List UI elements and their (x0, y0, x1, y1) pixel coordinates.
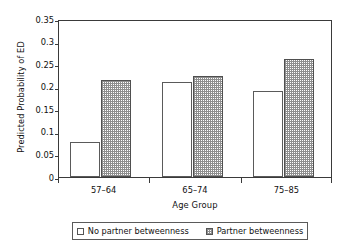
x-axis-tick-mark (241, 178, 242, 183)
legend-entry: Partner betweenness (206, 227, 304, 236)
x-axis-tick-mark (331, 178, 332, 183)
y-axis-tick-label: 0.1 (20, 128, 54, 136)
y-axis-tick-mark (55, 89, 59, 90)
y-axis-tick-mark (55, 66, 59, 67)
x-axis-tick-label: 65–74 (160, 185, 230, 195)
bar-chart-figure: Predicted Probability of ED 00.050.10.15… (0, 0, 342, 252)
y-axis-tick-label: 0.2 (20, 83, 54, 91)
bar-no-partner-betweenness (70, 142, 100, 177)
y-axis-tick-label: 0.25 (20, 61, 54, 69)
x-axis-tick-labels: 57–6465–7475–85 (58, 185, 332, 197)
x-axis-title: Age Group (58, 200, 332, 210)
y-axis-tick-mark (55, 111, 59, 112)
x-axis-tick-label: 57–64 (69, 185, 139, 195)
bar-partner-betweenness (193, 76, 223, 177)
y-axis-tick-labels: 00.050.10.150.20.250.30.35 (16, 0, 54, 252)
x-axis-tick-mark (149, 178, 150, 183)
x-axis-tick-label: 75–85 (251, 185, 321, 195)
y-axis-tick-label: 0 (20, 174, 54, 182)
open-square-icon (77, 228, 84, 235)
bar-no-partner-betweenness (162, 82, 192, 177)
bar-partner-betweenness (101, 80, 131, 177)
chart-legend: No partner betweennessPartner betweennes… (72, 222, 308, 240)
y-axis-tick-mark (55, 44, 59, 45)
y-axis-tick-mark (55, 21, 59, 22)
y-axis-tick-mark (55, 156, 59, 157)
bar-partner-betweenness (284, 59, 314, 177)
y-axis-tick-label: 0.35 (20, 16, 54, 24)
legend-entry: No partner betweenness (77, 227, 189, 236)
bar-no-partner-betweenness (253, 91, 283, 177)
plot-area (58, 20, 332, 178)
y-axis-tick-mark (55, 134, 59, 135)
x-axis-tick-marks (58, 178, 332, 184)
bars-layer (59, 21, 331, 177)
y-axis-tick-label: 0.15 (20, 106, 54, 114)
legend-label: Partner betweenness (217, 227, 304, 236)
hatched-square-icon (206, 228, 213, 235)
legend-label: No partner betweenness (88, 227, 189, 236)
x-axis-tick-mark (58, 178, 59, 183)
y-axis-tick-label: 0.05 (20, 151, 54, 159)
y-axis-tick-label: 0.3 (20, 38, 54, 46)
